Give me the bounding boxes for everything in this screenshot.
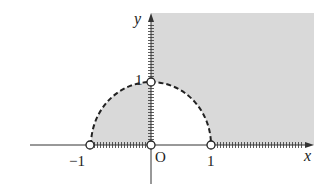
x-axis-hatch-neg — [94, 142, 148, 148]
y-axis-label: y — [132, 10, 142, 28]
y-axis-hatch-upper — [148, 24, 154, 79]
region-diagram: y x O −1 1 1 — [0, 0, 334, 189]
y-axis-hatch-lower — [148, 86, 154, 142]
shaded-region-first-quadrant — [151, 13, 314, 145]
tick-label-x-pos1: 1 — [207, 153, 215, 169]
x-axis-hatch-pos — [214, 142, 304, 148]
origin-label: O — [155, 149, 166, 165]
x-axis-label: x — [303, 147, 311, 164]
open-point-neg1-0 — [86, 141, 94, 149]
tick-label-y-pos1: 1 — [135, 72, 143, 88]
open-point-1-0 — [207, 141, 215, 149]
open-point-origin — [147, 141, 155, 149]
tick-label-x-neg1: −1 — [69, 153, 85, 169]
open-point-0-1 — [147, 78, 155, 86]
